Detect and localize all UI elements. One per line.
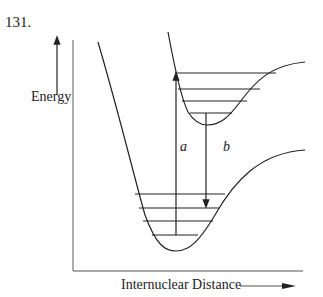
transition-a-label: a (180, 139, 187, 155)
diagram-page: 131. (0, 0, 323, 297)
x-axis-label: Internuclear Distance (121, 277, 241, 293)
y-axis-label: Energy (31, 89, 71, 105)
potential-energy-diagram (0, 0, 323, 297)
transition-b-label: b (223, 139, 230, 155)
excited-state-curve (168, 32, 305, 125)
